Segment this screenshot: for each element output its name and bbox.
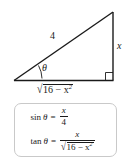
tangent-radicand-text: 16 − x <box>67 142 90 152</box>
radicand-exponent: 2 <box>69 83 72 90</box>
tangent-radical-expression: √16 − x2 <box>61 141 94 153</box>
opposite-side-label: x <box>117 41 121 51</box>
trigonometry-figure: 4 x θ √16 − x2 sinθ = x 4 tanθ = x <box>0 0 130 163</box>
tangent-denominator: √16 − x2 <box>60 140 95 153</box>
radical-sign: √ <box>37 83 42 95</box>
adjacent-side-label: √16 − x2 <box>37 83 73 95</box>
radical-expression: √16 − x2 <box>37 83 73 95</box>
right-angle-marker <box>106 73 114 81</box>
sine-lhs: sinθ <box>31 112 48 122</box>
formula-row-tangent: tanθ = x √16 − x2 <box>23 130 109 153</box>
tangent-angle-symbol: θ <box>44 136 48 146</box>
triangle-hypotenuse-line <box>14 12 113 81</box>
sine-denominator: 4 <box>60 116 69 127</box>
sine-fraction: x 4 <box>60 106 69 127</box>
formula-row-sine: sinθ = x 4 <box>23 106 109 127</box>
sine-function-name: sin <box>31 112 42 122</box>
tangent-lhs: tanθ <box>31 136 48 146</box>
tangent-radicand-exponent: 2 <box>90 141 93 147</box>
right-triangle-diagram: 4 x θ √16 − x2 <box>0 0 130 100</box>
tangent-equals-sign: = <box>51 136 56 146</box>
sine-angle-symbol: θ <box>43 112 47 122</box>
tangent-fraction: x √16 − x2 <box>60 130 95 153</box>
radicand-text: 16 − x <box>43 84 69 95</box>
tangent-function-name: tan <box>31 136 42 146</box>
tangent-radicand: 16 − x2 <box>67 142 94 153</box>
tangent-radical-sign: √ <box>61 142 66 153</box>
tangent-numerator: x <box>73 130 81 140</box>
sine-numerator: x <box>60 106 68 116</box>
formula-box: sinθ = x 4 tanθ = x √16 − x2 <box>14 103 117 157</box>
hypotenuse-label: 4 <box>50 31 55 41</box>
sine-equals-sign: = <box>50 112 55 122</box>
angle-theta-label: θ <box>42 63 47 73</box>
radicand: 16 − x2 <box>43 84 73 95</box>
